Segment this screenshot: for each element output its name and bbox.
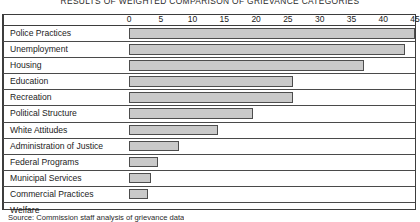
category-label: Recreation: [10, 90, 52, 105]
x-tick-15: 15: [220, 14, 229, 25]
x-tick-40: 40: [378, 14, 387, 25]
bar: [129, 60, 364, 71]
category-label: Housing: [10, 58, 42, 73]
x-tick-5: 5: [158, 14, 163, 25]
category-label: Education: [10, 74, 48, 89]
bar: [129, 141, 179, 152]
bar-track: [129, 26, 415, 41]
bar-track: [129, 74, 415, 89]
category-label: Political Structure: [10, 106, 77, 121]
bar: [129, 189, 148, 200]
bar-row: Housing: [3, 58, 415, 74]
bar-row: Education: [3, 74, 415, 90]
bar: [129, 76, 293, 87]
bar: [129, 125, 218, 136]
bar: [129, 44, 405, 55]
bar-track: [129, 187, 415, 202]
bar: [129, 108, 253, 119]
bar-track: [129, 106, 415, 121]
bar-row: Unemployment: [3, 42, 415, 58]
bar-row: Recreation: [3, 90, 415, 106]
bar: [129, 28, 415, 39]
bar-rows: Police PracticesUnemploymentHousingEduca…: [3, 26, 415, 209]
x-tick-0: 0: [127, 14, 132, 25]
bar-row: Municipal Services: [3, 171, 415, 187]
x-tick-35: 35: [347, 14, 356, 25]
bar-track: [129, 90, 415, 105]
x-tick-25: 25: [283, 14, 292, 25]
bar-row: Federal Programs: [3, 155, 415, 171]
x-tick-30: 30: [315, 14, 324, 25]
category-label: Administration of Justice: [10, 139, 103, 154]
category-label: Commercial Practices: [10, 187, 94, 202]
x-tick-45: 45: [410, 14, 419, 25]
bar: [129, 157, 158, 168]
bar-track: [129, 171, 415, 186]
x-axis: 051015202530354045: [3, 15, 415, 26]
chart-caption: Source: Commission staff analysis of gri…: [8, 213, 184, 222]
bar-row: Administration of Justice: [3, 139, 415, 155]
category-label: Police Practices: [10, 26, 71, 41]
category-label: Municipal Services: [10, 171, 82, 186]
category-label: White Attitudes: [10, 123, 67, 138]
chart-title: RESULTS OF WEIGHTED COMPARISON OF GRIEVA…: [0, 0, 420, 6]
x-tick-10: 10: [188, 14, 197, 25]
bar-row: White Attitudes: [3, 123, 415, 139]
chart-frame: 051015202530354045 Police PracticesUnemp…: [2, 14, 416, 210]
bar-row: Commercial Practices: [3, 187, 415, 203]
x-tick-20: 20: [251, 14, 260, 25]
bar-track: [129, 155, 415, 170]
bar-track: [129, 139, 415, 154]
chart-figure: RESULTS OF WEIGHTED COMPARISON OF GRIEVA…: [0, 0, 420, 222]
bar: [129, 92, 293, 103]
bar-track: [129, 58, 415, 73]
bar-row: Police Practices: [3, 26, 415, 42]
bar-track: [129, 42, 415, 57]
category-label: Unemployment: [10, 42, 68, 57]
bar: [129, 173, 151, 184]
bar-track: [129, 123, 415, 138]
category-label: Federal Programs: [10, 155, 79, 170]
bar-row: Political Structure: [3, 106, 415, 122]
